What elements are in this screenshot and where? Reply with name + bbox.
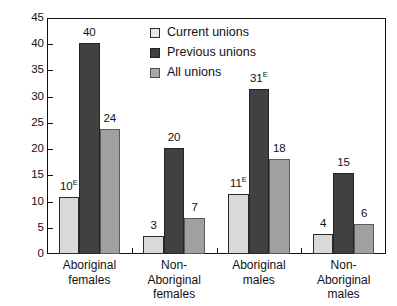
bar <box>164 148 185 254</box>
bar-value-label: 7 <box>173 202 216 214</box>
y-tick-label: 20 <box>16 143 44 155</box>
bar-value-label: 40 <box>68 27 111 39</box>
bar <box>143 236 164 254</box>
y-tick-label: 25 <box>16 117 44 129</box>
y-tick-label: 40 <box>16 38 44 50</box>
y-tick-label: 30 <box>16 91 44 103</box>
x-category-line: Non- <box>286 258 397 273</box>
legend-item[interactable]: All unions <box>150 66 256 79</box>
bar <box>100 129 121 254</box>
x-group-separator-tick <box>132 248 133 254</box>
legend-item[interactable]: Previous unions <box>150 46 256 59</box>
x-category-line: males <box>286 287 397 302</box>
y-tick-label: 15 <box>16 169 44 181</box>
legend: Current unionsPrevious unionsAll unions <box>150 26 256 86</box>
y-tick-mark <box>47 97 53 98</box>
y-tick-mark <box>47 228 53 229</box>
x-group-separator-tick <box>217 248 218 254</box>
bar <box>249 89 270 254</box>
y-tick-mark <box>47 123 53 124</box>
estimate-marker: E <box>263 70 268 79</box>
estimate-marker: E <box>242 175 247 184</box>
bar <box>184 218 205 254</box>
bar <box>269 159 290 254</box>
legend-swatch-icon <box>150 28 160 38</box>
legend-swatch-icon <box>150 48 160 58</box>
legend-label: Current unions <box>167 26 249 39</box>
y-tick-mark <box>47 44 53 45</box>
bar-value-label: 18 <box>258 143 301 155</box>
bar-chart: 051015202530354045 10E4024320711E31E1841… <box>0 0 397 306</box>
bar <box>79 43 100 254</box>
legend-label: Previous unions <box>167 46 256 59</box>
legend-swatch-icon <box>150 68 160 78</box>
y-tick-mark <box>47 149 53 150</box>
bar <box>228 194 249 254</box>
bar-value-label: 15 <box>322 157 365 169</box>
bar <box>313 234 334 254</box>
y-tick-label: 5 <box>16 222 44 234</box>
y-tick-label: 45 <box>16 12 44 24</box>
bar-value-label: 24 <box>89 113 132 125</box>
y-tick-mark <box>47 70 53 71</box>
bar-value-label: 6 <box>343 208 386 220</box>
legend-label: All unions <box>167 66 221 79</box>
estimate-marker: E <box>73 179 78 188</box>
bar-value-label: 20 <box>153 132 196 144</box>
y-tick-mark <box>47 202 53 203</box>
y-tick-label: 35 <box>16 64 44 76</box>
bar <box>354 224 375 254</box>
bar <box>59 197 80 254</box>
y-tick-label: 10 <box>16 196 44 208</box>
x-group-separator-tick <box>301 248 302 254</box>
y-tick-mark <box>47 175 53 176</box>
legend-item[interactable]: Current unions <box>150 26 256 39</box>
x-category-line: Aboriginal <box>286 273 397 288</box>
x-category-label: Non-Aboriginalmales <box>286 258 397 306</box>
